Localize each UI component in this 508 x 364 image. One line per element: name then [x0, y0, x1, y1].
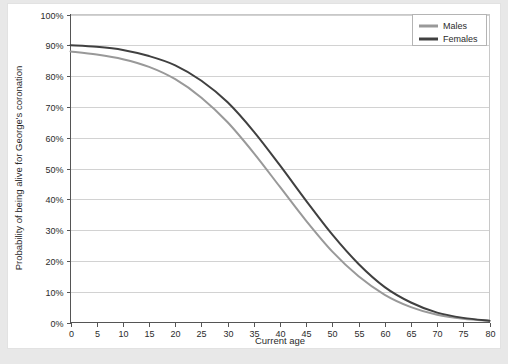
x-tick-label-25: 25	[196, 329, 206, 339]
legend-label-females: Females	[443, 34, 478, 44]
x-tick-label-80: 80	[485, 329, 495, 339]
y-axis-title: Probability of being alive for George's …	[13, 66, 24, 271]
x-axis-title: Current age	[255, 335, 305, 346]
y-tick-label-60: 60%	[45, 134, 63, 144]
y-tick-label-40: 40%	[45, 195, 63, 205]
y-tick-label-50: 50%	[45, 165, 63, 175]
legend-label-males: Males	[443, 21, 468, 31]
y-tick-label-0: 0%	[50, 319, 63, 329]
x-tick-label-20: 20	[170, 329, 180, 339]
x-tick-label-5: 5	[95, 329, 100, 339]
probability-line-chart: 0%10%20%30%40%50%60%70%80%90%100% 051015…	[8, 4, 500, 348]
x-tick-label-60: 60	[380, 329, 390, 339]
x-tick-label-75: 75	[458, 329, 468, 339]
chart-legend: MalesFemales	[413, 15, 487, 46]
y-tick-label-90: 90%	[45, 41, 63, 51]
x-tick-label-70: 70	[432, 329, 442, 339]
chart-card: 0%10%20%30%40%50%60%70%80%90%100% 051015…	[8, 4, 500, 348]
y-tick-label-80: 80%	[45, 72, 63, 82]
y-tick-label-70: 70%	[45, 103, 63, 113]
chart-container: 0%10%20%30%40%50%60%70%80%90%100% 051015…	[8, 4, 500, 348]
chart-background	[8, 4, 500, 348]
y-tick-label-20: 20%	[45, 257, 63, 267]
x-tick-label-65: 65	[406, 329, 416, 339]
x-tick-label-50: 50	[327, 329, 337, 339]
y-tick-label-10: 10%	[45, 288, 63, 298]
x-tick-label-0: 0	[69, 329, 74, 339]
y-tick-label-30: 30%	[45, 226, 63, 236]
x-tick-label-15: 15	[144, 329, 154, 339]
page-background: 0%10%20%30%40%50%60%70%80%90%100% 051015…	[0, 0, 508, 364]
x-tick-label-30: 30	[223, 329, 233, 339]
x-tick-label-55: 55	[354, 329, 364, 339]
x-tick-label-10: 10	[118, 329, 128, 339]
y-tick-label-100: 100%	[40, 11, 63, 21]
